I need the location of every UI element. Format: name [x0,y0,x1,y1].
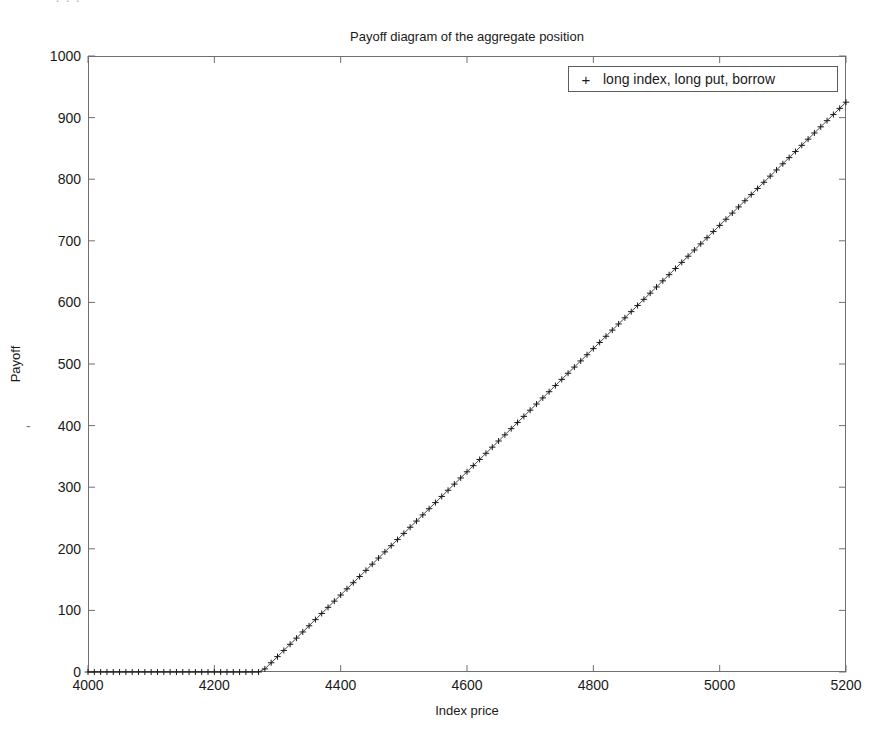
chart-title: Payoff diagram of the aggregate position [88,29,846,44]
x-tick-label: 4800 [578,677,609,693]
data-point-marker [224,669,230,675]
plot-area: 01002003004005006007008009001000 4000420… [88,56,846,672]
y-tick-label: 200 [58,541,81,557]
y-tick-label: 500 [58,356,81,372]
y-tick-label: 600 [58,294,81,310]
data-point-marker [129,669,135,675]
plot-svg [88,56,846,672]
series-markers [85,99,849,675]
data-point-marker [123,669,129,675]
data-point-marker [154,669,160,675]
data-point-marker [236,669,242,675]
x-tick-label: 4400 [325,677,356,693]
data-point-marker [249,669,255,675]
scan-artifact-top: · · · [55,0,81,8]
y-axis-stray-dash: - [26,418,31,434]
figure-canvas: · · · Payoff diagram of the aggregate po… [0,0,884,739]
x-tick-label: 4000 [72,677,103,693]
legend-entry-label: long index, long put, borrow [603,71,789,87]
x-tick-label: 4600 [451,677,482,693]
data-point-marker [173,669,179,675]
data-point-marker [167,669,173,675]
data-point-marker [148,669,154,675]
data-point-marker [205,669,211,675]
data-point-marker [217,669,223,675]
y-tick-label: 100 [58,602,81,618]
y-tick-label: 300 [58,479,81,495]
y-tick-label: 800 [58,171,81,187]
legend-marker-plus-icon: + [569,71,603,87]
data-point-marker [243,669,249,675]
data-point-marker [186,669,192,675]
axis-ticks [88,56,846,672]
data-point-marker [104,669,110,675]
data-point-marker [161,669,167,675]
y-tick-label: 400 [58,418,81,434]
y-axis-label: Payoff [8,346,23,383]
y-tick-label: 700 [58,233,81,249]
data-point-marker [199,669,205,675]
x-tick-label: 5200 [830,677,861,693]
legend-box[interactable]: + long index, long put, borrow [568,66,838,92]
data-point-marker [135,669,141,675]
data-point-marker [230,669,236,675]
data-point-marker [192,669,198,675]
data-point-marker [91,669,97,675]
data-point-marker [255,669,261,675]
data-point-marker [142,669,148,675]
y-tick-label: 900 [58,110,81,126]
data-point-marker [116,669,122,675]
data-point-marker [180,669,186,675]
x-tick-label: 5000 [704,677,735,693]
data-point-marker [85,669,91,675]
series-line [88,102,846,672]
x-axis-label: Index price [88,703,846,718]
x-tick-label: 4200 [199,677,230,693]
data-point-marker [211,669,217,675]
y-tick-label: 1000 [50,48,81,64]
data-point-marker [97,669,103,675]
data-point-marker [110,669,116,675]
